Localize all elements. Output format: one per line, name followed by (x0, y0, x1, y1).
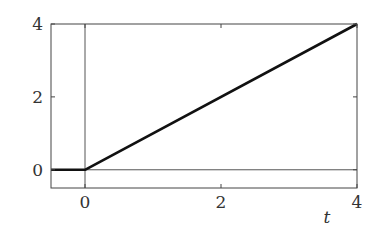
series-line-ramp (51, 24, 357, 170)
ramp-chart: 024 024 t (0, 0, 381, 243)
y-tick-label: 2 (32, 87, 43, 107)
x-tick-labels: 024 (80, 192, 363, 212)
y-tick-label: 4 (32, 14, 43, 34)
y-tick-labels: 024 (32, 14, 43, 180)
x-tick-label: 4 (352, 192, 363, 212)
series-layer (51, 24, 357, 170)
x-axis-label: t (324, 207, 331, 227)
x-tick-label: 2 (216, 192, 227, 212)
y-tick-label: 0 (32, 160, 43, 180)
x-tick-label: 0 (80, 192, 91, 212)
